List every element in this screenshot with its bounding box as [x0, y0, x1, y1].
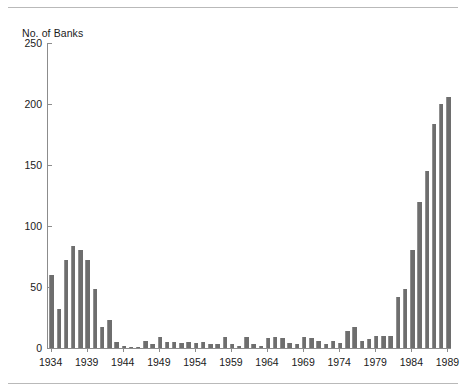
- x-tick-label: 1989: [436, 356, 459, 368]
- bar: [78, 250, 82, 348]
- bar: [381, 336, 385, 348]
- bar: [71, 246, 75, 348]
- bar: [85, 260, 89, 348]
- top-divider-rule: [8, 7, 458, 8]
- x-tick-mark: [303, 348, 304, 352]
- bar: [446, 97, 450, 348]
- bar: [403, 289, 407, 348]
- x-tick-label: 1979: [364, 356, 387, 368]
- bar-series: [48, 43, 451, 348]
- y-tick-label: 100: [2, 221, 42, 232]
- bar: [316, 341, 320, 348]
- bar: [338, 343, 342, 348]
- x-tick-mark: [339, 348, 340, 352]
- bar: [150, 344, 154, 348]
- bar: [360, 341, 364, 348]
- x-tick-mark: [231, 348, 232, 352]
- chart-figure: No. of Banks 050100150200250 19341939194…: [0, 0, 466, 391]
- bar: [143, 341, 147, 348]
- bar: [122, 346, 126, 348]
- bar: [165, 342, 169, 348]
- x-tick-label: 1944: [111, 356, 134, 368]
- x-tick-label: 1969: [291, 356, 314, 368]
- bar: [57, 309, 61, 348]
- bar: [352, 327, 356, 348]
- bar: [129, 347, 133, 348]
- bar: [309, 338, 313, 348]
- bar: [93, 289, 97, 348]
- x-axis-line: [47, 348, 451, 349]
- bar: [230, 344, 234, 348]
- bar: [158, 337, 162, 348]
- x-tick-label: 1934: [39, 356, 62, 368]
- x-tick-label: 1964: [255, 356, 278, 368]
- bar: [208, 344, 212, 348]
- bar: [280, 338, 284, 348]
- bar: [107, 320, 111, 348]
- bar: [194, 343, 198, 348]
- bar: [49, 275, 53, 348]
- x-tick-mark: [375, 348, 376, 352]
- bar: [432, 124, 436, 348]
- y-tick-label: 150: [2, 160, 42, 171]
- bar: [439, 104, 443, 348]
- bar: [172, 342, 176, 348]
- bar: [114, 342, 118, 348]
- bar: [324, 344, 328, 348]
- bar: [396, 297, 400, 348]
- bar: [259, 346, 263, 348]
- x-tick-label: 1949: [147, 356, 170, 368]
- y-tick-label: 0: [2, 343, 42, 354]
- bar: [136, 347, 140, 348]
- x-tick-label: 1954: [183, 356, 206, 368]
- y-tick-label: 250: [2, 38, 42, 49]
- bar: [302, 337, 306, 348]
- bar: [345, 331, 349, 348]
- x-tick-mark: [411, 348, 412, 352]
- bar: [273, 337, 277, 348]
- x-tick-label: 1959: [219, 356, 242, 368]
- bar: [186, 342, 190, 348]
- bar: [223, 337, 227, 348]
- bar: [417, 202, 421, 348]
- x-tick-mark: [447, 348, 448, 352]
- bar: [201, 342, 205, 348]
- y-tick-label: 50: [2, 282, 42, 293]
- bar: [100, 327, 104, 348]
- x-tick-label: 1974: [327, 356, 350, 368]
- x-tick-mark: [159, 348, 160, 352]
- x-tick-mark: [267, 348, 268, 352]
- x-tick-label: 1939: [75, 356, 98, 368]
- x-tick-mark: [51, 348, 52, 352]
- bar: [374, 336, 378, 348]
- bar: [331, 341, 335, 348]
- x-tick-mark: [123, 348, 124, 352]
- bar: [295, 344, 299, 348]
- bar: [251, 344, 255, 348]
- bar: [64, 260, 68, 348]
- y-tick-label: 200: [2, 99, 42, 110]
- bar: [266, 338, 270, 348]
- bar: [244, 337, 248, 348]
- bar: [179, 343, 183, 348]
- x-tick-mark: [87, 348, 88, 352]
- bar: [237, 346, 241, 348]
- x-tick-label: 1984: [400, 356, 423, 368]
- bar: [388, 336, 392, 348]
- bar: [367, 339, 371, 348]
- x-tick-mark: [195, 348, 196, 352]
- bar: [287, 343, 291, 348]
- bottom-divider-rule: [8, 383, 458, 384]
- bar: [215, 344, 219, 348]
- bar: [425, 171, 429, 348]
- bar: [410, 250, 414, 348]
